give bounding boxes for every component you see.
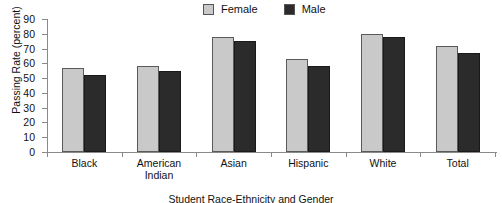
legend-label-female: Female (221, 4, 258, 15)
category-label-line: Hispanic (271, 157, 346, 169)
x-axis-category-label: Total (420, 157, 495, 169)
bar-male-total (458, 53, 480, 152)
y-axis-tick: 50 (42, 78, 47, 79)
bar-male-asian (234, 41, 256, 152)
x-axis-tick (495, 152, 496, 157)
x-axis-title: Student Race-Ethnicity and Gender (0, 193, 502, 203)
x-axis-category-label: AmericanIndian (122, 157, 197, 181)
bar-male-black (84, 75, 106, 152)
bar-male-white (383, 37, 405, 152)
y-axis-tick: 30 (42, 108, 47, 109)
y-axis-tick: 10 (42, 137, 47, 138)
y-axis-tick: 80 (42, 34, 47, 35)
y-axis-tick: 40 (42, 93, 47, 94)
y-axis-tick-label: 10 (23, 131, 35, 143)
y-axis-tick-label: 70 (23, 43, 35, 55)
bar-female-asian (212, 37, 234, 152)
category-label-line: Total (420, 157, 495, 169)
category-label-line: American (122, 157, 197, 169)
y-axis-tick-label: 0 (29, 146, 35, 158)
x-axis-category-label: Black (47, 157, 122, 169)
bar-female-total (436, 46, 458, 152)
y-axis-title: Passing Rate (percent) (10, 0, 22, 125)
chart-legend: Female Male (203, 2, 326, 16)
legend-swatch-female-icon (203, 4, 214, 15)
y-axis-tick-label: 40 (23, 87, 35, 99)
category-label-line: Black (47, 157, 122, 169)
bar-female-american-indian (137, 66, 159, 152)
bar-female-hispanic (286, 59, 308, 152)
category-label-line: Asian (196, 157, 271, 169)
x-axis-category-label: Asian (196, 157, 271, 169)
legend-swatch-male-icon (284, 4, 295, 15)
y-axis-tick-label: 50 (23, 72, 35, 84)
category-label-line: Indian (122, 169, 197, 181)
bar-chart: Female Male Passing Rate (percent) 01020… (0, 0, 502, 203)
category-label-line: White (346, 157, 421, 169)
y-axis-line (47, 19, 48, 153)
y-axis-tick-label: 20 (23, 116, 35, 128)
bar-male-american-indian (159, 71, 181, 152)
bar-female-white (361, 34, 383, 152)
plot-area: 0102030405060708090 (47, 19, 495, 152)
x-axis-category-label: Hispanic (271, 157, 346, 169)
y-axis-tick-label: 30 (23, 102, 35, 114)
legend-entry-female: Female (203, 4, 258, 15)
y-axis-tick-label: 60 (23, 57, 35, 69)
y-axis-tick: 70 (42, 49, 47, 50)
legend-label-male: Male (302, 4, 326, 15)
bar-female-black (62, 68, 84, 152)
y-axis-tick: 60 (42, 63, 47, 64)
y-axis-tick-label: 80 (23, 28, 35, 40)
x-axis-category-label: White (346, 157, 421, 169)
y-axis-tick: 20 (42, 122, 47, 123)
x-axis-line (47, 152, 497, 153)
legend-entry-male: Male (284, 4, 326, 15)
bar-male-hispanic (308, 66, 330, 152)
y-axis-tick-label: 90 (23, 13, 35, 25)
y-axis-tick: 90 (42, 19, 47, 20)
